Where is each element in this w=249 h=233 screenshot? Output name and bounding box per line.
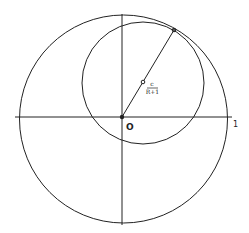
unit-label: 1 <box>233 120 238 129</box>
center-label-numerator: c <box>150 80 154 87</box>
diagram-canvas: O 1 c R+1 <box>0 0 249 233</box>
center-label-denominator: R+1 <box>146 88 159 95</box>
radius-segment <box>122 30 174 117</box>
large-circle <box>20 15 228 223</box>
origin-label: O <box>126 122 134 132</box>
center-point <box>141 80 145 84</box>
origin-point <box>120 115 124 119</box>
tangent-point <box>172 28 176 32</box>
